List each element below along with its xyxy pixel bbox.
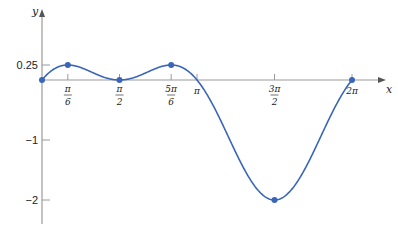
ticks: π6π25π6π3π22π0.25−1−2 — [17, 59, 359, 206]
x-axis-label: x — [386, 83, 393, 96]
x-tick-numerator: π — [116, 84, 124, 94]
x-tick-denominator: 6 — [65, 97, 71, 107]
y-tick-label: 0.25 — [17, 59, 38, 71]
x-tick-denominator: 2 — [116, 97, 123, 107]
x-tick-denominator: 2 — [271, 97, 278, 107]
data-point — [168, 62, 174, 68]
data-point — [39, 77, 45, 83]
x-tick-label: π — [193, 86, 201, 96]
y-axis-arrow-icon — [39, 9, 45, 17]
data-point — [349, 77, 355, 83]
y-axis-label: y — [31, 5, 39, 18]
marked-points — [39, 62, 355, 203]
x-tick-numerator: π — [64, 84, 72, 94]
data-point — [272, 197, 278, 203]
x-tick-numerator: 3π — [269, 84, 282, 94]
function-plot: xy π6π25π6π3π22π0.25−1−2 — [0, 0, 398, 231]
x-axis-arrow-icon — [378, 77, 386, 83]
axes: xy — [31, 5, 393, 224]
y-tick-label: −1 — [25, 134, 38, 146]
x-tick-denominator: 6 — [168, 97, 174, 107]
data-point — [65, 62, 71, 68]
data-point — [117, 77, 123, 83]
x-tick-numerator: 5π — [165, 84, 178, 94]
y-tick-label: −2 — [25, 194, 38, 206]
